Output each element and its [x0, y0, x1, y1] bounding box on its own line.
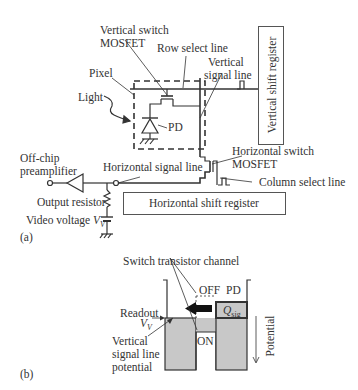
row-select-line-label: Row select line [157, 42, 228, 55]
vsl-potential-label-2: signal line [112, 348, 160, 361]
vsl-potential-label-1: Vertical [112, 335, 148, 348]
pd-label: PD [168, 121, 183, 134]
horizontal-shift-register: Horizontal shift register [123, 192, 286, 215]
pd-well-label: PD [226, 284, 241, 297]
video-voltage-text: Video voltage [26, 214, 90, 226]
row-pulse-icon [237, 81, 244, 89]
qsig-subscript: sig [231, 310, 240, 319]
video-voltage-label: Video voltage VV [26, 214, 105, 231]
preamplifier-label-1: Off-chip [20, 152, 59, 165]
vertical-signal-line-label-1: Vertical [208, 56, 244, 69]
vertical-shift-register-label: Vertical shift register [266, 25, 278, 145]
on-label: ON [197, 335, 214, 348]
vertical-shift-register: Vertical shift register [258, 26, 284, 145]
horizontal-switch-label-1: Horizontal switch [232, 145, 314, 158]
readout-vv-label: VV [140, 317, 152, 334]
vertical-signal-line-label-2: signal line [204, 69, 252, 82]
column-select-line-label: Column select line [259, 176, 345, 189]
horizontal-signal-line-label: Horizontal signal line [103, 161, 203, 174]
vertical-switch-label-1: Vertical switch [100, 24, 169, 37]
vv-symbol: V [140, 317, 147, 329]
light-label: Light [78, 91, 103, 104]
vsl-potential-label-3: potential [112, 361, 152, 374]
output-resistor-label: Output resistor [37, 196, 106, 209]
video-voltage-symbol: V [93, 214, 100, 226]
qsig-label: Qsig [223, 304, 241, 321]
off-label: OFF [199, 284, 220, 297]
horizontal-shift-register-label: Horizontal shift register [149, 197, 259, 210]
potential-axis-label: Potential [264, 306, 276, 366]
switch-channel-label: Switch transistor channel [123, 255, 239, 268]
panel-a-label: (a) [20, 231, 33, 244]
vv-subscript: V [147, 323, 152, 332]
panel-b-label: (b) [20, 368, 33, 381]
pixel-label: Pixel [89, 67, 113, 80]
preamplifier-label-2: preamplifier [20, 165, 77, 178]
vertical-switch-label-2: MOSFET [100, 37, 145, 50]
video-voltage-subscript: V [100, 220, 105, 229]
horizontal-switch-label-2: MOSFET [232, 158, 277, 171]
